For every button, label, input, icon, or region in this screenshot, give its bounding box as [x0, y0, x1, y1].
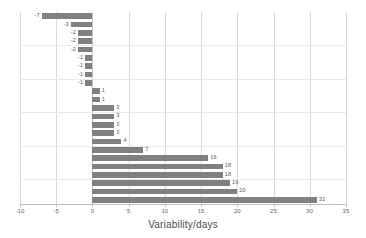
bar — [92, 139, 121, 145]
x-tick-label: -5 — [53, 208, 59, 214]
x-tick-mark — [310, 204, 311, 207]
bar — [85, 63, 92, 69]
bar-value-label: -2 — [71, 47, 76, 53]
bar — [92, 114, 114, 120]
bar-value-label: 1 — [102, 97, 105, 103]
x-tick-label: 5 — [127, 208, 130, 214]
bar-value-label: -7 — [35, 13, 40, 19]
bar — [92, 122, 114, 128]
bar-value-label: 7 — [145, 147, 148, 153]
bar-value-label: 20 — [239, 188, 245, 194]
bar-row: -2 — [20, 45, 346, 53]
bar — [78, 30, 92, 36]
bar — [85, 80, 92, 86]
bar — [78, 38, 92, 44]
x-axis-line — [20, 204, 346, 205]
x-tick-mark — [20, 204, 21, 207]
bar — [42, 13, 93, 19]
x-tick-mark — [92, 204, 93, 207]
bar-row: 31 — [20, 196, 346, 204]
x-tick-label: 25 — [270, 208, 277, 214]
bar — [92, 105, 114, 111]
bar-row: -1 — [20, 62, 346, 70]
bar-value-label: 1 — [102, 88, 105, 94]
x-tick-label: 15 — [198, 208, 205, 214]
x-tick-mark — [165, 204, 166, 207]
bar-row: 4 — [20, 137, 346, 145]
bar-row: -1 — [20, 54, 346, 62]
x-tick-mark — [201, 204, 202, 207]
x-tick-mark — [274, 204, 275, 207]
bar — [92, 164, 222, 170]
bar-row: 3 — [20, 121, 346, 129]
x-tick-mark — [346, 204, 347, 207]
x-tick-mark — [237, 204, 238, 207]
bar-value-label: 16 — [210, 155, 216, 161]
bar-value-label: 18 — [225, 172, 231, 178]
bar-row: 3 — [20, 104, 346, 112]
vertical-gridline — [346, 12, 347, 204]
bar — [92, 147, 143, 153]
x-axis-title: Variability/days — [0, 219, 366, 230]
x-tick-label: 35 — [343, 208, 350, 214]
bar-value-label: 31 — [319, 197, 325, 203]
bar — [92, 130, 114, 136]
bar-row: 3 — [20, 112, 346, 120]
bar-value-label: 18 — [225, 163, 231, 169]
bar-value-label: 4 — [123, 138, 126, 144]
bar — [92, 189, 237, 195]
bar-value-label: -3 — [64, 22, 69, 28]
bar — [92, 172, 222, 178]
bar — [71, 22, 93, 28]
bar-value-label: -1 — [78, 63, 83, 69]
bar — [92, 197, 317, 203]
bar-value-label: 3 — [116, 122, 119, 128]
x-tick-label: 10 — [161, 208, 168, 214]
bar — [92, 97, 99, 103]
x-tick-mark — [129, 204, 130, 207]
x-tick-label: 0 — [91, 208, 94, 214]
bar — [92, 180, 230, 186]
x-tick-label: -10 — [16, 208, 25, 214]
bar-value-label: 3 — [116, 113, 119, 119]
bar — [85, 55, 92, 61]
bar-row: 20 — [20, 187, 346, 195]
bar-row: 7 — [20, 146, 346, 154]
bar-row: 3 — [20, 129, 346, 137]
x-tick-label: 20 — [234, 208, 241, 214]
bar-row: -3 — [20, 20, 346, 28]
bar-value-label: 3 — [116, 105, 119, 111]
bar — [85, 72, 92, 78]
plot-area: -7-3-2-2-2-1-1-1-111333347161818192031 — [20, 12, 346, 204]
bar-value-label: 3 — [116, 130, 119, 136]
bar-value-label: 19 — [232, 180, 238, 186]
bar-row: -2 — [20, 37, 346, 45]
bar — [92, 88, 99, 94]
bar-value-label: -1 — [78, 55, 83, 61]
bar — [92, 155, 208, 161]
bar-row: 18 — [20, 171, 346, 179]
bar-row: -7 — [20, 12, 346, 20]
bar-value-label: -1 — [78, 72, 83, 78]
bar-value-label: -2 — [71, 30, 76, 36]
bar-value-label: -1 — [78, 80, 83, 86]
bar-chart: -7-3-2-2-2-1-1-1-111333347161818192031 -… — [0, 0, 366, 238]
bar-row: 1 — [20, 87, 346, 95]
bar-row: -1 — [20, 70, 346, 78]
x-tick-mark — [56, 204, 57, 207]
x-tick-label: 30 — [306, 208, 313, 214]
bar-row: 1 — [20, 95, 346, 103]
bar-row: -1 — [20, 79, 346, 87]
bar-row: 16 — [20, 154, 346, 162]
bar-row: 19 — [20, 179, 346, 187]
bar-row: -2 — [20, 29, 346, 37]
bar-value-label: -2 — [71, 38, 76, 44]
bar — [78, 47, 92, 53]
bar-row: 18 — [20, 162, 346, 170]
